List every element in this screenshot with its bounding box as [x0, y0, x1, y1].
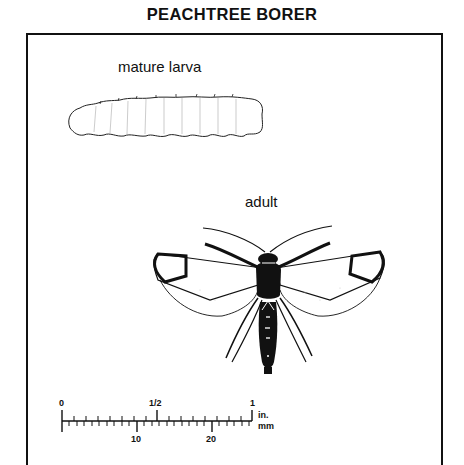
scale-label-half-in: 1/2	[149, 398, 162, 408]
scale-label-0-in: 0	[59, 398, 64, 408]
scale-label-10-mm: 10	[131, 434, 141, 444]
scale-unit-mm: mm	[258, 421, 274, 431]
scale-label-20-mm: 20	[206, 434, 216, 444]
scale-label-1-in: 1	[250, 398, 255, 408]
scale-unit-in: in.	[258, 410, 269, 420]
